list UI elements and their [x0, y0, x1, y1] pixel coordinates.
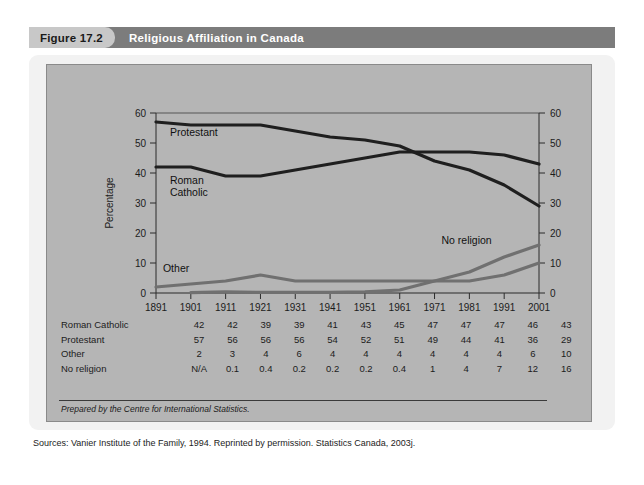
series-annotation-no-religion: No religion: [442, 234, 492, 246]
table-cell: 4: [449, 362, 482, 377]
table-cell: 54: [316, 333, 349, 348]
y-axis-left-labels: 60 50 40 30 20 10 0: [135, 108, 147, 299]
table-cell: 4: [483, 347, 516, 362]
table-cell: 49: [416, 333, 449, 348]
table-cell: 39: [249, 318, 282, 333]
figure-title: Religious Affiliation in Canada: [115, 27, 304, 48]
table-cell: 6: [283, 347, 316, 362]
x-tick-label-1901: 1901: [180, 302, 203, 313]
table-cell: 0.2: [283, 362, 316, 377]
table-cell: 1: [416, 362, 449, 377]
table-cell: 46: [516, 318, 549, 333]
table-cell: 44: [449, 333, 482, 348]
table-cell: 4: [249, 347, 282, 362]
table-cell: 36: [516, 333, 549, 348]
table-cell: 43: [550, 318, 583, 333]
y-tick-left-10: 10: [135, 258, 147, 269]
table-cell: 4: [383, 347, 416, 362]
prepared-note-divider: [59, 400, 547, 401]
table-cell: 56: [216, 333, 249, 348]
table-cell: 42: [182, 318, 215, 333]
y-tick-right-20: 20: [550, 228, 562, 239]
x-tick-label-1991: 1991: [493, 302, 516, 313]
y-tick-right-10: 10: [550, 258, 562, 269]
table-cell: 39: [283, 318, 316, 333]
table-cell: 10: [550, 347, 583, 362]
table-cell: 56: [249, 333, 282, 348]
x-tick-label-1911: 1911: [215, 302, 237, 313]
table-cell: 45: [383, 318, 416, 333]
table-cell: 29: [550, 333, 583, 348]
table-row-label: Roman Catholic: [57, 318, 182, 333]
y-tick-left-40: 40: [135, 168, 147, 179]
x-axis: 1891190119111921193119411951196119711981…: [145, 293, 551, 313]
y-axis-right-ticks: [539, 113, 545, 293]
table-cell: 47: [449, 318, 482, 333]
sources-line: Sources: Vanier Institute of the Family,…: [33, 438, 415, 448]
y-tick-left-30: 30: [135, 198, 147, 209]
table-cell: 52: [349, 333, 382, 348]
x-tick-label-1981: 1981: [458, 302, 481, 313]
y-tick-left-60: 60: [135, 108, 147, 119]
table-cell: 56: [283, 333, 316, 348]
table-row: Roman Catholic424239394143454747474643: [57, 318, 583, 333]
x-tick-label-1971: 1971: [423, 302, 446, 313]
table-cell: 57: [182, 333, 215, 348]
table-row: Other2346444444610: [57, 347, 583, 362]
table-cell: 0.4: [249, 362, 282, 377]
table-row-label: Other: [57, 347, 182, 362]
y-axis-title: Percentage: [104, 177, 115, 229]
data-table: Roman Catholic424239394143454747474643Pr…: [57, 318, 583, 376]
table-row-label: Protestant: [57, 333, 182, 348]
table-cell: 0.4: [383, 362, 416, 377]
y-tick-left-50: 50: [135, 138, 147, 149]
table-cell: 0.2: [349, 362, 382, 377]
x-tick-label-1951: 1951: [354, 302, 377, 313]
y-axis-left-ticks: [150, 113, 156, 293]
series-line-roman-catholic: [156, 152, 539, 176]
table-cell: 41: [483, 333, 516, 348]
y-tick-left-20: 20: [135, 228, 147, 239]
series-annotation-other: Other: [163, 262, 190, 274]
table-cell: 47: [483, 318, 516, 333]
x-tick-label-2001: 2001: [528, 302, 551, 313]
table-cell: N/A: [182, 362, 215, 377]
table-cell: 4: [416, 347, 449, 362]
table-row: No religionN/A0.10.40.20.20.20.41471216: [57, 362, 583, 377]
table-cell: 41: [316, 318, 349, 333]
line-chart: 60 50 40 30 20 10 0 60 50 40 30 20 10 0 …: [47, 65, 593, 315]
table-cell: 7: [483, 362, 516, 377]
prepared-note: Prepared by the Centre for International…: [61, 404, 250, 414]
table-cell: 6: [516, 347, 549, 362]
figure-body: 60 50 40 30 20 10 0 60 50 40 30 20 10 0 …: [46, 64, 592, 422]
table-cell: 4: [349, 347, 382, 362]
series-annotation-roman-catholic: RomanCatholic: [170, 174, 208, 198]
y-tick-right-30: 30: [550, 198, 562, 209]
table-cell: 0.1: [216, 362, 249, 377]
x-tick-label-1921: 1921: [249, 302, 272, 313]
figure-header-bar: Figure 17.2 Religious Affiliation in Can…: [29, 27, 615, 48]
table-cell: 2: [182, 347, 215, 362]
table-row: Protestant575656565452514944413629: [57, 333, 583, 348]
y-tick-left-0: 0: [140, 288, 146, 299]
series-line-no-religion: [191, 245, 539, 293]
table-cell: 51: [383, 333, 416, 348]
table-cell: 12: [516, 362, 549, 377]
y-tick-right-40: 40: [550, 168, 562, 179]
y-tick-right-0: 0: [550, 288, 556, 299]
chart-annotations: ProtestantRomanCatholicOtherNo religion: [163, 126, 492, 275]
table-cell: 0.2: [316, 362, 349, 377]
series-annotation-protestant: Protestant: [170, 126, 218, 138]
table-cell: 43: [349, 318, 382, 333]
chart-svg: 60 50 40 30 20 10 0 60 50 40 30 20 10 0 …: [47, 65, 593, 315]
table-cell: 16: [550, 362, 583, 377]
table-row-label: No religion: [57, 362, 182, 377]
table-cell: 3: [216, 347, 249, 362]
x-tick-label-1961: 1961: [389, 302, 412, 313]
chart-series-group: [156, 122, 539, 293]
table-cell: 42: [216, 318, 249, 333]
figure-number-badge: Figure 17.2: [29, 27, 115, 48]
x-tick-label-1891: 1891: [145, 302, 168, 313]
y-axis-right-labels: 60 50 40 30 20 10 0: [550, 108, 562, 299]
x-tick-label-1931: 1931: [284, 302, 307, 313]
